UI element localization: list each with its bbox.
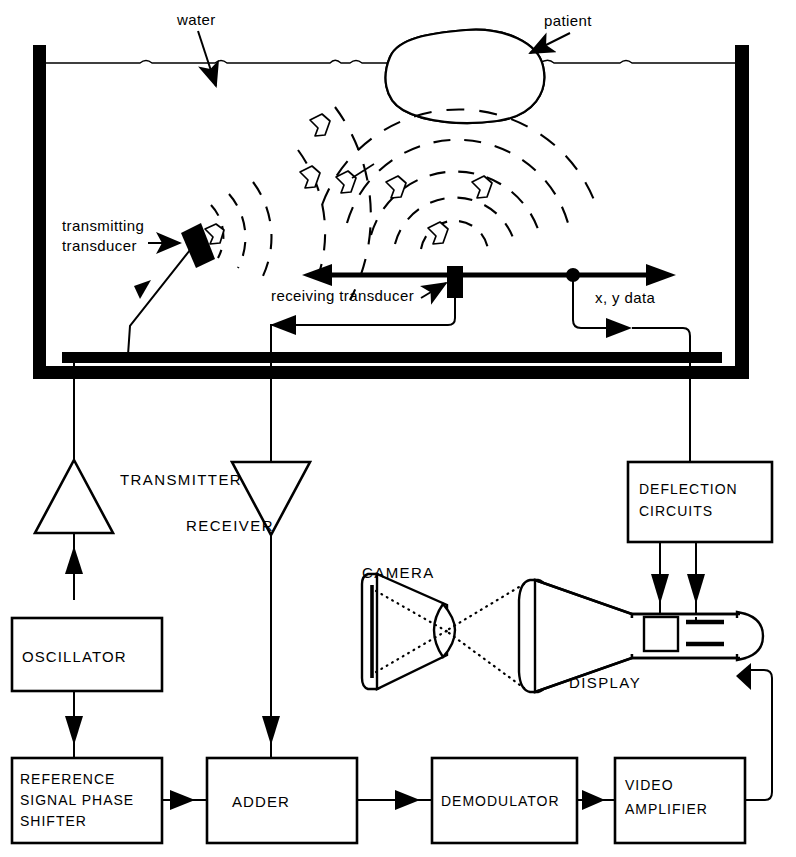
wire-phaseshifter-to-adder	[162, 790, 207, 810]
demodulator-label: DEMODULATOR	[441, 793, 560, 809]
deflection-circuits-line2: CIRCUITS	[639, 503, 713, 519]
patient-annotation: patient	[530, 12, 592, 53]
video-display-wire	[745, 670, 772, 800]
received-wave-arcs	[322, 109, 596, 249]
diagram-canvas: patient water	[0, 0, 796, 857]
water-pointer-arrow	[198, 31, 216, 86]
transmitting-transducer-label-line2: transducer	[62, 237, 137, 254]
reference-phase-shifter-line2: SIGNAL PHASE	[20, 792, 134, 808]
transmitter-amplifier: TRANSMITTER	[35, 356, 242, 600]
tank-wall-left	[33, 45, 46, 379]
patient-body	[386, 30, 545, 123]
block-video-amplifier[interactable]: VIDEO AMPLIFIER	[615, 758, 745, 843]
optical-ray-3	[449, 584, 524, 629]
receiving-transducer-pointer-arrow	[421, 283, 446, 298]
block-deflection-circuits[interactable]: DEFLECTION CIRCUITS	[628, 462, 772, 621]
scan-line-right-arrowhead	[646, 264, 676, 286]
transmitter-triangle	[35, 460, 113, 533]
optical-ray-4	[449, 633, 524, 688]
transmitting-transducer-annotation: transmitting transducer	[62, 217, 180, 254]
display-neck-cap-join	[731, 618, 743, 654]
wire-adder-to-demodulator	[357, 790, 432, 810]
demodulator-video-arrowhead	[582, 790, 605, 810]
adder-demodulator-arrowhead	[395, 790, 420, 810]
water-label: water	[176, 11, 216, 28]
receive-chevron-1	[428, 222, 448, 244]
receiving-transducer-label: receiving transducer	[271, 287, 414, 304]
transmitting-transducer-label-line1: transmitting	[62, 217, 144, 234]
video-display-arrowhead	[736, 663, 751, 690]
xy-data-arrowhead	[606, 318, 632, 338]
wire-demodulator-to-video-amplifier	[577, 790, 615, 810]
deflection-arrowhead-2	[687, 574, 705, 604]
transmit-beam-direction-markers	[205, 114, 374, 244]
receiver-output-arrowhead	[262, 716, 280, 745]
reference-phase-shifter-line1: REFERENCE	[20, 771, 115, 787]
xy-data-label: x, y data	[595, 289, 656, 306]
block-reference-signal-phase-shifter[interactable]: REFERENCE SIGNAL PHASE SHIFTER	[12, 758, 162, 843]
deflection-arrowhead-1	[651, 574, 669, 604]
crt-display: DISPLAY	[519, 580, 763, 692]
transmitting-transducer-cable	[128, 250, 190, 355]
receive-beam-direction-markers	[386, 176, 492, 244]
transmitter-label: TRANSMITTER	[120, 471, 242, 488]
deflection-circuits-line1: DEFLECTION	[639, 481, 738, 497]
water-annotation: water	[176, 11, 216, 86]
receiving-transducer-annotation: receiving transducer	[271, 283, 446, 304]
reference-phase-shifter-line3: SHIFTER	[20, 813, 87, 829]
display-label: DISPLAY	[569, 674, 641, 691]
deflection-circuits-box[interactable]	[628, 462, 772, 542]
transmitting-transducer-cable-arrow	[134, 280, 151, 299]
beam-chevron-3	[310, 114, 330, 136]
block-demodulator[interactable]: DEMODULATOR	[432, 758, 577, 843]
patient-label: patient	[544, 12, 592, 29]
camera-label: CAMERA	[362, 564, 435, 581]
receiving-transducer-face	[447, 266, 463, 298]
receive-chevron-3	[472, 176, 492, 198]
transmitter-input-arrowhead	[65, 546, 83, 574]
tank-floor	[33, 366, 749, 379]
video-amplifier-line2: AMPLIFIER	[625, 801, 708, 817]
block-adder[interactable]: ADDER	[207, 758, 357, 843]
display-cone-neck-join	[625, 618, 641, 654]
block-oscillator[interactable]: OSCILLATOR	[12, 618, 162, 758]
deflection-yoke-coil	[644, 617, 678, 651]
receiver-label: RECEIVER	[186, 517, 274, 534]
tank-wall-right	[735, 45, 749, 379]
oscillator-label: OSCILLATOR	[22, 648, 127, 665]
receive-chevron-2	[386, 176, 406, 198]
tank-floor-inner	[62, 352, 722, 363]
camera-lens	[434, 604, 455, 657]
patient-pointer-arrow	[530, 33, 570, 53]
receiver-amplifier: RECEIVER	[186, 356, 310, 760]
oscillator-output-arrowhead	[65, 716, 83, 745]
xy-data-wire-2	[632, 328, 690, 462]
transmitted-wave-arcs	[211, 107, 371, 300]
beam-chevron-4	[336, 171, 356, 193]
video-amplifier-line1: VIDEO	[625, 777, 674, 793]
ultrasound-system-diagram: patient water	[0, 0, 796, 857]
phaseshifter-adder-arrowhead	[170, 790, 195, 810]
adder-label: ADDER	[232, 793, 290, 810]
scan-line-left-arrowhead	[302, 264, 332, 286]
